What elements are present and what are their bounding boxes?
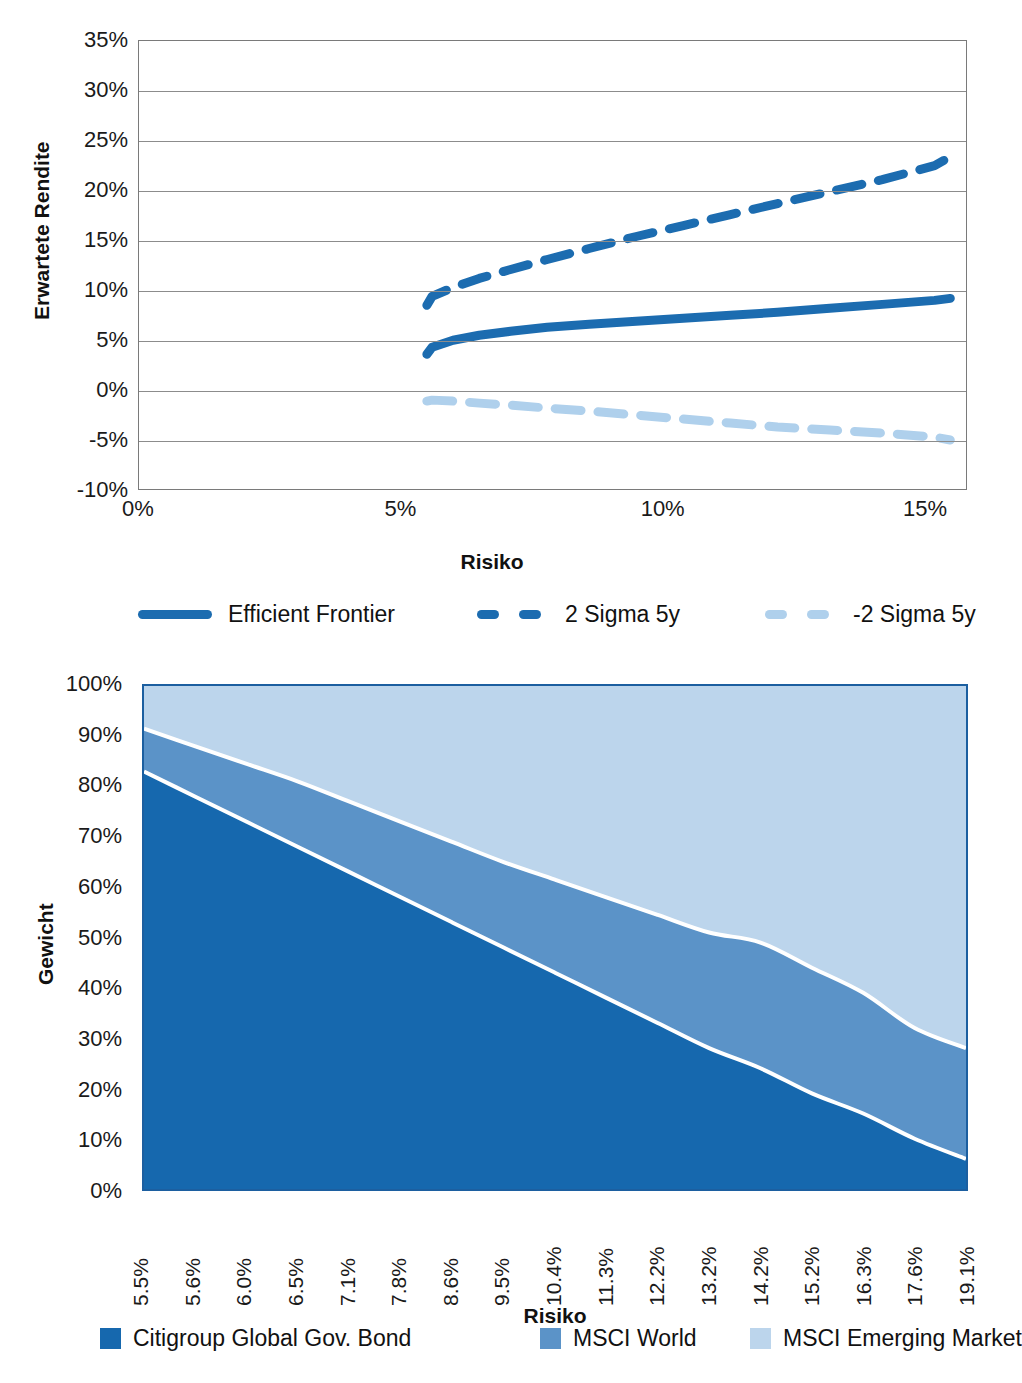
chart1-y-tick: 30% — [84, 79, 128, 101]
chart2-x-tick: 13.2% — [698, 1246, 719, 1306]
chart2-x-tick: 15.2% — [801, 1246, 822, 1306]
chart2-legend-label: Citigroup Global Gov. Bond — [133, 1325, 411, 1352]
chart2-x-tick: 6.5% — [285, 1258, 306, 1306]
chart2-x-tick: 19.1% — [956, 1246, 977, 1306]
chart1-plot-area — [138, 40, 967, 490]
chart1-legend-item[interactable]: 2 Sigma 5y — [475, 601, 680, 628]
chart2-x-tick: 10.4% — [543, 1246, 564, 1306]
chart1-x-axis-title: Risiko — [0, 550, 984, 574]
chart2-y-tick: 10% — [78, 1129, 122, 1151]
chart1-legend-swatch-dashed-line — [475, 610, 549, 619]
chart2-x-tick: 17.6% — [904, 1246, 925, 1306]
chart1-y-tick: -5% — [89, 429, 128, 451]
chart1-y-tick: 10% — [84, 279, 128, 301]
chart1-y-tick: 20% — [84, 179, 128, 201]
chart2-x-tick: 14.2% — [750, 1246, 771, 1306]
chart2-x-tick: 5.6% — [182, 1258, 203, 1306]
chart1-y-tick: 15% — [84, 229, 128, 251]
chart2-y-tick: 0% — [90, 1180, 122, 1202]
chart2-legend-swatch — [540, 1328, 561, 1349]
chart2-x-tick: 8.6% — [440, 1258, 461, 1306]
efficient-frontier-chart: Erwartete Rendite -10%-5%0%5%10%15%20%25… — [0, 0, 984, 640]
chart2-y-tick: 60% — [78, 876, 122, 898]
chart1-legend-label: Efficient Frontier — [228, 601, 395, 628]
chart1-gridline — [139, 291, 966, 292]
chart2-y-tick: 100% — [66, 673, 122, 695]
chart1-legend-item[interactable]: -2 Sigma 5y — [763, 601, 976, 628]
chart2-y-tick: 90% — [78, 724, 122, 746]
chart1-series-svg — [139, 41, 966, 490]
chart1-x-tick: 15% — [903, 498, 947, 520]
chart2-y-tick: 40% — [78, 977, 122, 999]
chart1-y-tick: 35% — [84, 29, 128, 51]
chart2-x-axis-ticks: 5.5%5.6%6.0%6.5%7.1%7.8%8.6%9.5%10.4%11.… — [142, 1196, 968, 1306]
chart1-y-tick: 5% — [96, 329, 128, 351]
chart1-gridline — [139, 441, 966, 442]
chart2-area-svg — [144, 686, 966, 1189]
chart2-x-tick: 12.2% — [646, 1246, 667, 1306]
chart1-legend-swatch-dashed-line — [763, 610, 837, 619]
chart1-gridline — [139, 191, 966, 192]
chart2-legend-item[interactable]: MSCI World — [540, 1325, 697, 1352]
chart2-legend-swatch — [100, 1328, 121, 1349]
chart2-legend-item[interactable]: Citigroup Global Gov. Bond — [100, 1325, 411, 1352]
chart2-y-tick: 20% — [78, 1079, 122, 1101]
chart1-x-tick: 10% — [641, 498, 685, 520]
chart1-y-tick: 0% — [96, 379, 128, 401]
chart1-x-axis-ticks: 0%5%10%15% — [0, 498, 984, 538]
chart2-y-tick: 30% — [78, 1028, 122, 1050]
chart2-y-tick: 80% — [78, 774, 122, 796]
chart2-x-tick: 6.0% — [233, 1258, 254, 1306]
chart2-plot-area — [142, 684, 968, 1191]
chart2-y-axis-ticks: 0%10%20%30%40%50%60%70%80%90%100% — [0, 640, 132, 1200]
chart1-series-3 — [427, 400, 950, 440]
chart2-x-tick: 16.3% — [853, 1246, 874, 1306]
chart1-legend-item[interactable]: Efficient Frontier — [138, 601, 395, 628]
chart2-y-tick: 70% — [78, 825, 122, 847]
chart2-legend-label: MSCI Emerging Market — [783, 1325, 1022, 1352]
chart1-gridline — [139, 241, 966, 242]
chart2-x-tick: 5.5% — [130, 1258, 151, 1306]
chart2-y-tick: 50% — [78, 927, 122, 949]
chart1-gridline — [139, 391, 966, 392]
chart1-legend: Efficient Frontier2 Sigma 5y-2 Sigma 5y — [138, 592, 984, 636]
chart2-x-tick: 7.8% — [388, 1258, 409, 1306]
chart1-y-tick: 25% — [84, 129, 128, 151]
chart1-series-1 — [427, 298, 950, 354]
chart1-legend-label: 2 Sigma 5y — [565, 601, 680, 628]
chart2-legend-item[interactable]: MSCI Emerging Market — [750, 1325, 1022, 1352]
chart1-legend-swatch-solid-line — [138, 610, 212, 619]
chart1-x-tick: 5% — [384, 498, 416, 520]
chart1-legend-label: -2 Sigma 5y — [853, 601, 976, 628]
chart2-x-tick: 11.3% — [595, 1248, 616, 1306]
chart2-legend-label: MSCI World — [573, 1325, 697, 1352]
chart1-series-2 — [427, 157, 950, 306]
chart2-legend-swatch — [750, 1328, 771, 1349]
chart1-x-tick: 0% — [122, 498, 154, 520]
asset-weights-chart: Gewicht 0%10%20%30%40%50%60%70%80%90%100… — [0, 640, 984, 1383]
chart1-gridline — [139, 91, 966, 92]
chart1-gridline — [139, 141, 966, 142]
chart2-x-tick: 7.1% — [337, 1258, 358, 1306]
chart1-y-axis-ticks: -10%-5%0%5%10%15%20%25%30%35% — [0, 0, 128, 500]
chart2-x-tick: 9.5% — [491, 1258, 512, 1306]
chart1-gridline — [139, 341, 966, 342]
chart2-legend: Citigroup Global Gov. BondMSCI WorldMSCI… — [100, 1318, 984, 1358]
